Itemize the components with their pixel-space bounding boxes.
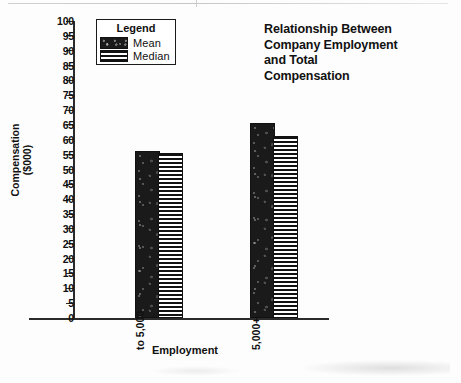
chart-title-line-4: Compensation [264, 69, 454, 85]
bar-mean-2 [250, 123, 275, 318]
bar-mean-1 [135, 151, 160, 318]
chart-title: Relationship BetweenCompany Employmentan… [264, 22, 454, 84]
legend-swatch-mean-icon [100, 37, 128, 49]
legend-entry-median: Median [100, 50, 170, 62]
chart-title-line-3: and Total [264, 53, 454, 69]
y-axis-tick-label-wrap: 0 [30, 318, 74, 319]
legend-label-mean: Mean [133, 37, 161, 49]
legend-title: Legend [97, 22, 175, 34]
x-axis-category-label-2: 5,000+ [250, 318, 262, 350]
x-axis-title: Employment [152, 344, 218, 356]
scan-artifact-smudge-secondary [150, 366, 240, 376]
bar-median-2 [273, 136, 298, 318]
legend-swatch-median-icon [100, 50, 128, 62]
legend-entry-mean: Mean [100, 37, 161, 49]
x-axis-category-label-1: to 5,000 [134, 311, 146, 350]
chart-page: 0510152025303540455055606570758085909510… [0, 0, 461, 383]
legend-label-median: Median [133, 50, 170, 62]
x-axis-line [29, 318, 329, 320]
chart-title-line-1: Relationship Between [264, 22, 454, 38]
legend: Legend Mean Median [96, 19, 176, 65]
scan-artifact-smudge [300, 360, 450, 376]
chart-title-line-2: Company Employment [264, 38, 454, 54]
bar-median-1 [158, 153, 183, 318]
